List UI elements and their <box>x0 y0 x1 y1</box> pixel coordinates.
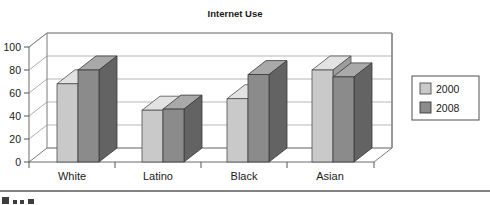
bar-white-2008 <box>78 56 117 162</box>
x-category-label: Asian <box>316 170 344 182</box>
bar-black-2008 <box>248 61 287 162</box>
bar-group-latino <box>142 95 202 162</box>
footer-caption-glyph <box>28 199 34 204</box>
y-axis-ticks <box>24 33 47 162</box>
bar-group-asian <box>312 56 372 162</box>
y-axis-tick-labels: 100 80 60 40 20 0 <box>3 41 21 168</box>
internet-use-bar-chart: 100 80 60 40 20 0 <box>0 0 490 205</box>
legend-swatch-2008 <box>420 102 431 113</box>
plot-depth-edge-bottom-left <box>29 148 47 162</box>
x-category-label: White <box>58 170 86 182</box>
x-category-label: Latino <box>143 170 173 182</box>
chart-title: Internet Use <box>208 8 263 19</box>
legend-label-2008: 2008 <box>436 102 460 114</box>
x-axis-category-labels: White Latino Black Asian <box>58 170 344 182</box>
y-tick-label: 80 <box>9 64 21 76</box>
chart-legend: 2000 2008 <box>412 76 479 120</box>
y-tick-label: 0 <box>15 156 21 168</box>
bar-asian-2008 <box>333 63 372 162</box>
legend-swatch-2000 <box>420 83 431 94</box>
y-tick-label: 60 <box>9 87 21 99</box>
y-tick-label: 20 <box>9 133 21 145</box>
y-tick-label: 40 <box>9 110 21 122</box>
footer-caption-glyph <box>13 200 17 204</box>
bar-latino-2008 <box>163 95 202 162</box>
x-axis-separators <box>29 162 374 168</box>
footer-caption-marker <box>2 197 9 204</box>
chart-container: 100 80 60 40 20 0 <box>0 0 490 205</box>
plot-depth-edge-bottom-right <box>374 148 392 162</box>
legend-label-2000: 2000 <box>436 83 460 95</box>
footer-caption-glyph <box>20 200 24 204</box>
y-tick-label: 100 <box>3 41 21 53</box>
x-category-label: Black <box>231 170 258 182</box>
